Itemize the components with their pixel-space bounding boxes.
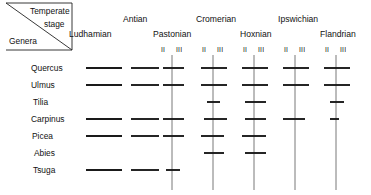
corner-genera-label: Genera [9,36,37,46]
substage-label-ii: II [284,46,288,53]
stage-label-pastonian: Pastonian [153,29,191,39]
chart-canvas: Temperate stage Genera Antian Cromerian … [0,0,371,195]
range-marks-hoxnian [242,68,268,153]
range-marks-cromerian [201,68,227,153]
stratigraphic-range-chart: Temperate stage Genera Antian Cromerian … [0,0,371,195]
stage-group-label-ipswichian: Ipswichian [278,14,318,24]
substage-label-iii: III [340,46,346,53]
range-marks-ipswichian [283,68,309,119]
stage-label-hoxnian: Hoxnian [240,29,272,39]
genus-label-tsuga: Tsuga [33,165,56,175]
range-marks-ludhamian [86,68,122,170]
substage-label-ii: II [202,46,206,53]
substage-label-ii: II [161,46,165,53]
stage-label-ludhamian: Ludhamian [69,29,112,39]
genus-label-picea: Picea [32,131,53,141]
substage-labels-pastonian: II III [161,46,182,53]
substage-label-ii: II [243,46,247,53]
genus-label-ulmus: Ulmus [31,80,55,90]
substage-label-ii: II [325,46,329,53]
stage-group-label-cromerian: Cromerian [196,14,236,24]
substage-labels-hoxnian: II III [243,46,264,53]
range-marks-pastonian [163,68,184,170]
genus-label-carpinus: Carpinus [31,114,65,124]
substage-label-iii: III [299,46,305,53]
genus-label-abies: Abies [34,148,55,158]
range-marks-flandrian [324,68,350,119]
corner-temperate-stage-line1: Temperate [30,6,70,16]
genus-label-quercus: Quercus [31,63,63,73]
substage-label-iii: III [258,46,264,53]
range-marks-antian [131,68,159,170]
genus-label-tilia: Tilia [33,97,48,107]
corner-temperate-stage-line2: stage [44,19,65,29]
stage-label-flandrian: Flandrian [320,29,356,39]
substage-label-iii: III [217,46,223,53]
substage-label-iii: III [176,46,182,53]
stage-group-label-antian: Antian [123,14,148,24]
substage-labels-ipswichian: II III [284,46,305,53]
substage-labels-cromerian: II III [202,46,223,53]
substage-labels-flandrian: II III [325,46,346,53]
